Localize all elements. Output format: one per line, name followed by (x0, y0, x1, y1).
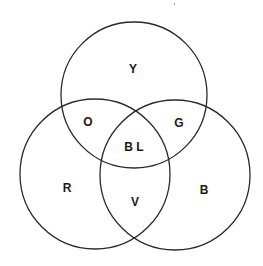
venn-diagram: Y O G B L R V B (0, 0, 263, 266)
region-label-left-only: R (63, 181, 72, 195)
circle-left (20, 99, 170, 249)
region-label-top-right: G (174, 116, 183, 130)
region-label-left-right: V (131, 195, 139, 209)
stray-mark (174, 3, 175, 5)
region-label-center: B L (124, 140, 143, 154)
region-label-top-only: Y (129, 62, 137, 76)
region-label-top-left: O (83, 115, 92, 129)
region-label-right-only: B (200, 183, 209, 197)
